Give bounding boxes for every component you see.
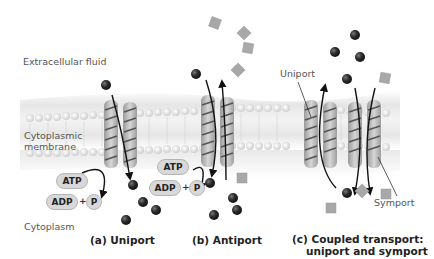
phosphate-a: P (86, 194, 102, 210)
extracellular-fluid-label: Extracellular fluid (23, 56, 107, 67)
cytoplasmic-membrane-label-line2: membrane (24, 141, 76, 152)
adp-pill-a: ADP (46, 194, 78, 210)
phosphate-b: P (189, 180, 205, 196)
atp-pill-a: ATP (56, 173, 88, 189)
transport-diagram: Extracellular fluid Cytoplasmic membrane… (0, 0, 434, 259)
caption-coupled-line2: uniport and symport (306, 245, 428, 257)
symport-pointer-label: Symport (374, 197, 414, 208)
caption-antiport: (b) Antiport (192, 234, 262, 246)
caption-coupled-line1: (c) Coupled transport: (292, 233, 423, 245)
adp-pill-b: ADP (149, 180, 181, 196)
cytoplasmic-membrane-label-line1: Cytoplasmic (24, 130, 82, 141)
caption-uniport: (a) Uniport (90, 234, 155, 246)
cytoplasm-label: Cytoplasm (24, 221, 75, 232)
uniport-pointer-label: Uniport (280, 68, 315, 79)
atp-pill-b: ATP (157, 159, 189, 175)
